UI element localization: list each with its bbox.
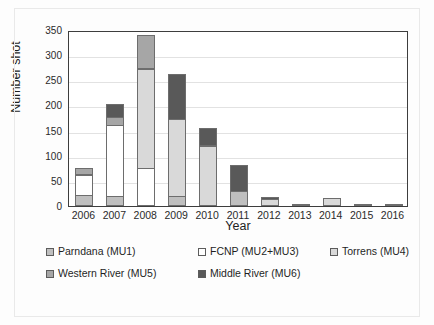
legend-row: Western River (MU5)Middle River (MU6) (46, 268, 416, 281)
legend-label: Western River (MU5) (58, 268, 156, 279)
bar-group-2016[interactable] (385, 204, 403, 206)
legend-item[interactable]: Parndana (MU1) (46, 246, 136, 257)
bar-group-2014[interactable] (323, 198, 341, 206)
y-axis-tick-label: 100 (45, 152, 62, 162)
chart-legend: Parndana (MU1)FCNP (MU2+MU3)Torrens (MU4… (46, 246, 416, 290)
bar-segment[interactable] (230, 191, 248, 206)
bar-group-2009[interactable] (168, 74, 186, 206)
legend-swatch-icon (198, 248, 206, 256)
bar-segment[interactable] (199, 146, 217, 206)
bar-segment[interactable] (75, 175, 93, 196)
bar-segment[interactable] (168, 119, 186, 197)
legend-label: FCNP (MU2+MU3) (210, 246, 299, 257)
y-axis-tick-label: 350 (45, 26, 62, 36)
legend-row: Parndana (MU1)FCNP (MU2+MU3)Torrens (MU4… (46, 246, 416, 259)
bar-segment[interactable] (354, 204, 372, 206)
bar-group-2007[interactable] (106, 104, 124, 206)
bar-segment[interactable] (137, 35, 155, 69)
bar-group-2012[interactable] (261, 197, 279, 206)
bar-series-container (69, 32, 407, 206)
legend-swatch-icon (46, 270, 54, 278)
bar-segment[interactable] (199, 128, 217, 146)
legend-item[interactable]: Torrens (MU4) (330, 246, 409, 257)
bar-group-2011[interactable] (230, 165, 248, 206)
legend-swatch-icon (46, 248, 54, 256)
y-axis-tick-label: 200 (45, 101, 62, 111)
bar-segment[interactable] (137, 69, 155, 170)
bar-segment[interactable] (168, 196, 186, 206)
bar-segment[interactable] (292, 204, 310, 206)
y-axis-title: Number shot (9, 17, 23, 137)
x-axis-title: Year (68, 219, 408, 233)
legend-label: Middle River (MU6) (210, 268, 300, 279)
legend-swatch-icon (330, 248, 338, 256)
bar-segment[interactable] (385, 204, 403, 206)
plot-area (68, 31, 408, 207)
bar-segment[interactable] (75, 195, 93, 206)
bar-group-2010[interactable] (199, 128, 217, 206)
legend-item[interactable]: Western River (MU5) (46, 268, 156, 279)
bar-segment[interactable] (106, 196, 124, 206)
y-axis-tick-label: 50 (51, 177, 62, 187)
y-axis-tick-label: 250 (45, 76, 62, 86)
legend-swatch-icon (198, 270, 206, 278)
bar-group-2013[interactable] (292, 204, 310, 206)
legend-label: Torrens (MU4) (342, 246, 409, 257)
figure-container: 050100150200250300350 Number shot 200620… (0, 0, 434, 325)
bar-group-2015[interactable] (354, 204, 372, 206)
bar-segment[interactable] (261, 199, 279, 206)
legend-label: Parndana (MU1) (58, 246, 136, 257)
y-axis-tick-label: 150 (45, 127, 62, 137)
bar-segment[interactable] (323, 198, 341, 206)
bar-segment[interactable] (106, 104, 124, 118)
bar-group-2006[interactable] (75, 168, 93, 206)
legend-item[interactable]: Middle River (MU6) (198, 268, 300, 279)
bar-segment[interactable] (106, 125, 124, 196)
y-axis-tick-label: 0 (56, 202, 62, 212)
bar-segment[interactable] (168, 74, 186, 119)
y-axis-tick-label: 300 (45, 51, 62, 61)
bar-group-2008[interactable] (137, 35, 155, 206)
bar-segment[interactable] (230, 165, 248, 192)
bar-segment[interactable] (137, 168, 155, 206)
legend-item[interactable]: FCNP (MU2+MU3) (198, 246, 299, 257)
